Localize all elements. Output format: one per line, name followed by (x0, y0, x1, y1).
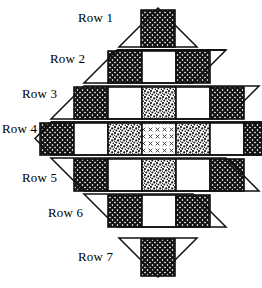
row-4-cell-3 (108, 123, 142, 155)
row-1-group (119, 8, 197, 47)
row-1-cell-1 (141, 10, 175, 47)
row-4-cell-2 (74, 123, 108, 155)
row-5-group (51, 158, 259, 191)
row-2-group (84, 50, 226, 83)
row-6-group (84, 194, 226, 227)
row-3-group (51, 86, 259, 119)
row-label-2: Row 2 (50, 51, 85, 67)
row-2-cell-1 (108, 51, 142, 83)
row-7-group (119, 238, 197, 277)
row-4-cell-7 (244, 123, 262, 155)
row-2-cell-3 (176, 51, 210, 83)
row-5-cell-2 (108, 159, 142, 191)
row-3-cell-2 (108, 87, 142, 119)
quilt-diagram: Row 1 Row 2 Row 3 Row 4 Row 5 Row 6 Row … (0, 0, 262, 288)
row-3-cell-5 (210, 87, 244, 119)
row-6-cell-2 (142, 195, 176, 227)
row-4-group (35, 122, 262, 155)
row-label-3: Row 3 (22, 86, 57, 102)
row-label-6: Row 6 (48, 205, 83, 221)
quilt-svg (0, 0, 262, 288)
row-4-cell-6 (210, 123, 244, 155)
row-label-7: Row 7 (78, 249, 113, 265)
row-label-1: Row 1 (78, 10, 113, 26)
row-label-4: Row 4 (2, 121, 37, 137)
row-5-cell-5 (210, 159, 244, 191)
row-3-cell-4 (176, 87, 210, 119)
row-3-cell-3 (142, 87, 176, 119)
row-4-cell-5 (176, 123, 210, 155)
row-2-cell-2 (142, 51, 176, 83)
row-5-cell-4 (176, 159, 210, 191)
row-label-5: Row 5 (22, 170, 57, 186)
row-5-cell-3 (142, 159, 176, 191)
row-4-cell-4 (142, 123, 176, 155)
row-7-cell-1 (141, 239, 175, 276)
row-6-cell-3 (176, 195, 210, 227)
